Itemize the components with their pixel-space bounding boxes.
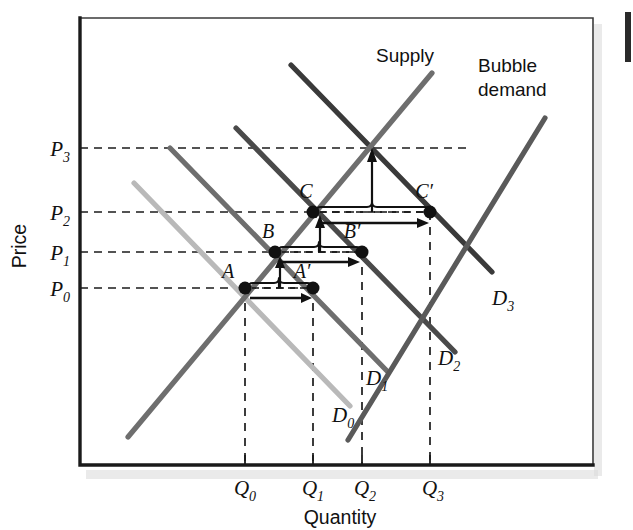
point-b-prime-dot <box>356 246 369 259</box>
frame-shadow-bottom <box>86 470 598 479</box>
curve-label-supply: Supply <box>376 45 435 66</box>
point-label-c: C <box>299 180 313 202</box>
curve-label-bubble-demand-line2: demand <box>478 79 547 100</box>
curve-label-bubble-demand-line1: Bubble <box>478 55 537 76</box>
ytick-label-p3: P3 <box>49 137 70 165</box>
point-c-dot <box>307 206 320 219</box>
point-a-prime-dot <box>307 282 320 295</box>
point-label-a-prime: A′ <box>292 260 311 282</box>
ytick-label-p0: P0 <box>49 277 70 305</box>
x-axis-title: Quantity <box>304 506 377 528</box>
figure-root: A A′ B B′ C C′ Supply Bubble demand D0 D… <box>0 0 633 530</box>
point-c-prime-dot <box>424 206 437 219</box>
point-a-dot <box>239 282 252 295</box>
frame-shadow-right <box>594 24 602 476</box>
point-label-b-prime: B′ <box>344 220 361 242</box>
y-axis-title: Price <box>8 224 30 268</box>
xtick-label-q3: Q3 <box>422 476 444 504</box>
xtick-label-q1: Q1 <box>302 476 324 504</box>
page-edge-mark <box>625 12 631 62</box>
supply-demand-chart: A A′ B B′ C C′ Supply Bubble demand D0 D… <box>0 0 633 530</box>
point-label-b: B <box>262 220 274 242</box>
ytick-label-p1: P1 <box>49 241 70 269</box>
ytick-label-p2: P2 <box>49 201 70 229</box>
point-b-dot <box>269 246 282 259</box>
xtick-label-q0: Q0 <box>234 476 256 504</box>
xtick-label-q2: Q2 <box>354 476 376 504</box>
point-label-a: A <box>220 260 235 282</box>
point-label-c-prime: C′ <box>415 180 433 202</box>
